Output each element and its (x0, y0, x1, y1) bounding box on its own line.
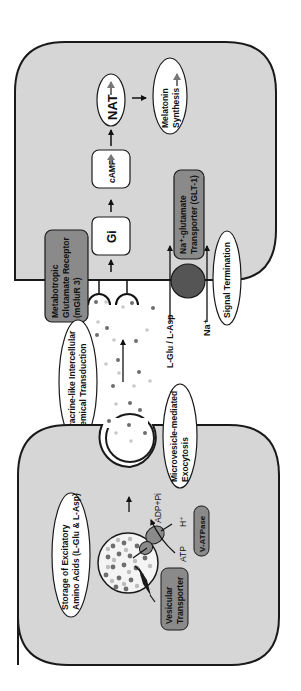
atp-label: ATP (178, 546, 188, 562)
svg-text:ADP+Pi: ADP+Pi (153, 493, 163, 523)
nat-node: NAT (97, 74, 125, 126)
svg-text:Signal Termination: Signal Termination (222, 242, 232, 318)
receptor-line3: (mGluR 3) (72, 277, 82, 318)
v-atpase-box: V-ATPase (194, 506, 209, 556)
melatonin-synthesis-node: Melatonin Synthesis (153, 58, 187, 134)
glt1-transporter-box: Na⁺-glutamate Transporter (GLT-1) (174, 170, 204, 259)
svg-text:Na⁺: Na⁺ (202, 319, 212, 336)
svg-text:Paracrine-like Intercellular: Paracrine-like Intercellular (67, 330, 77, 437)
h-plus-label: H⁺ (178, 516, 188, 527)
melatonin-line1: Melatonin (160, 88, 170, 128)
svg-text:Microvesicle-mediated: Microvesicle-mediated (169, 391, 179, 482)
storage-node: Storage of Excitatory Amino Acids (L-Glu… (52, 493, 90, 617)
svg-text:H⁺: H⁺ (178, 516, 188, 527)
glutamate-signaling-diagram: Metabotropic Glutamate Receptor (mGluR 3… (0, 0, 301, 691)
svg-text:L-Glu / L-Asp: L-Glu / L-Asp (165, 315, 175, 368)
melatonin-line2: Synthesis (171, 88, 181, 128)
svg-text:Exocytosis: Exocytosis (180, 437, 190, 482)
receptor-line2: Glutamate Receptor (61, 237, 71, 318)
glu-asp-label: L-Glu / L-Asp (165, 315, 175, 368)
svg-text:Amino Acids (L-Glu & L-Asp): Amino Acids (L-Glu & L-Asp) (71, 493, 81, 610)
transporter-ball-icon (171, 264, 205, 298)
transporter-line1: Na⁺-glutamate (178, 195, 188, 254)
svg-text:ATP: ATP (178, 546, 188, 562)
svg-text:V-ATPase: V-ATPase (198, 515, 207, 552)
gi-node: Gi (92, 217, 130, 255)
camp-node: cAMP (92, 150, 130, 188)
vesicular-transporter-box: Vesicular Transporter (161, 568, 188, 630)
signal-termination-node: Signal Termination (213, 231, 241, 325)
gi-label: Gi (105, 230, 119, 243)
svg-text:Transporter: Transporter (175, 576, 185, 624)
mglur3-receptor-box: Metabotropic Glutamate Receptor (mGluR 3… (45, 230, 88, 322)
svg-text:Storage of Excitatory: Storage of Excitatory (60, 524, 70, 610)
svg-text:Vesicular: Vesicular (164, 586, 174, 624)
nat-label: NAT (105, 94, 120, 120)
receptor-line1: Metabotropic (50, 264, 60, 318)
exocytosis-node: Microvesicle-mediated Exocytosis (163, 384, 197, 488)
svg-text:Chemical Transduction: Chemical Transduction (78, 343, 88, 437)
adp-label: ADP+Pi (153, 493, 163, 523)
na-label: Na⁺ (202, 319, 212, 336)
transporter-line2: Transporter (GLT-1) (189, 175, 199, 254)
